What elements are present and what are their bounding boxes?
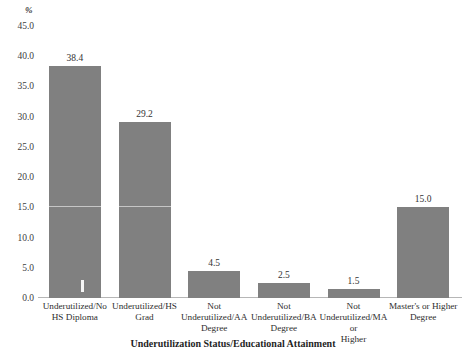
x-axis-category-line: Degree bbox=[176, 323, 252, 334]
bar-chart: % 0.05.010.015.020.025.030.035.040.045.0… bbox=[0, 0, 466, 359]
plot-area: 38.429.24.52.51.515.0 bbox=[40, 26, 458, 298]
y-axis-tick-label: 20.0 bbox=[17, 172, 34, 182]
y-axis-tick-label: 10.0 bbox=[17, 233, 34, 243]
y-axis-tick-label: 35.0 bbox=[17, 81, 34, 91]
x-axis-category-line: Not bbox=[246, 301, 322, 312]
bar-value-label: 29.2 bbox=[136, 109, 153, 119]
bar-scanline-artifact bbox=[119, 206, 171, 207]
y-axis-tick-label: 15.0 bbox=[17, 202, 34, 212]
x-axis-category-line: Underutilized/HS bbox=[107, 301, 183, 312]
x-axis-category-label: Master's or HigherDegree bbox=[385, 301, 461, 323]
x-axis-category-line: Degree bbox=[385, 312, 461, 323]
x-axis-category-label: NotUnderutilized/AADegree bbox=[176, 301, 252, 334]
y-axis-tick-label: 25.0 bbox=[17, 142, 34, 152]
y-axis-unit-label: % bbox=[25, 5, 33, 15]
x-axis-category-line: Underutilized/BA bbox=[246, 312, 322, 323]
bar bbox=[258, 283, 310, 298]
bar-value-label: 38.4 bbox=[67, 53, 84, 63]
x-axis-category-line: Underutilized/No bbox=[37, 301, 113, 312]
x-axis-category-line: Not bbox=[176, 301, 252, 312]
bar-value-label: 15.0 bbox=[415, 194, 432, 204]
bar-scanline-artifact bbox=[49, 206, 101, 207]
bar bbox=[328, 289, 380, 298]
y-axis-tick-labels: 0.05.010.015.020.025.030.035.040.045.0 bbox=[0, 26, 36, 298]
x-axis-category-line: Grad bbox=[107, 312, 183, 323]
x-axis-category-label: NotUnderutilized/BADegree bbox=[246, 301, 322, 334]
y-axis-tick-label: 0.0 bbox=[22, 293, 34, 303]
x-axis-category-line: Master's or Higher bbox=[385, 301, 461, 312]
y-axis-tick-label: 40.0 bbox=[17, 51, 34, 61]
x-axis-category-line: Underutilized/MA or bbox=[316, 312, 392, 334]
bar-notch-artifact bbox=[81, 280, 84, 292]
x-axis-category-line: Degree bbox=[246, 323, 322, 334]
x-axis-title: Underutilization Status/Educational Atta… bbox=[0, 338, 466, 349]
x-axis-category-line: Not bbox=[316, 301, 392, 312]
bar-value-label: 2.5 bbox=[278, 270, 290, 280]
bar bbox=[188, 271, 240, 298]
bar-value-label: 4.5 bbox=[208, 258, 220, 268]
bar bbox=[119, 122, 171, 298]
x-axis-category-line: Underutilized/AA bbox=[176, 312, 252, 323]
bar bbox=[49, 66, 101, 298]
x-axis-category-label: Underutilized/HSGrad bbox=[107, 301, 183, 323]
y-axis-tick-label: 5.0 bbox=[22, 263, 34, 273]
y-axis-tick-label: 30.0 bbox=[17, 112, 34, 122]
x-axis-category-line: Higher bbox=[316, 334, 392, 345]
x-axis-category-label: NotUnderutilized/MA orHigher bbox=[316, 301, 392, 345]
bar-value-label: 1.5 bbox=[348, 276, 360, 286]
bar bbox=[397, 207, 449, 298]
x-axis-category-line: HS Diploma bbox=[37, 312, 113, 323]
x-axis-category-label: Underutilized/NoHS Diploma bbox=[37, 301, 113, 323]
y-axis-tick-label: 45.0 bbox=[17, 21, 34, 31]
